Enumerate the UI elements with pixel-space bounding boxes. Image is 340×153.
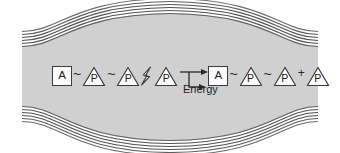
high-energy-bond-2: ~ xyxy=(106,67,116,81)
phosphate-triangle-3-cleaved: P xyxy=(154,66,178,87)
energy-label: Energy xyxy=(183,84,218,95)
high-energy-bond-3: ~ xyxy=(228,67,238,81)
phosphate-label: P xyxy=(281,73,288,87)
phosphate-label: P xyxy=(247,73,254,87)
phosphate-triangle-free: P xyxy=(306,66,330,87)
phosphate-label: P xyxy=(314,73,321,87)
phosphate-triangle-5: P xyxy=(273,66,297,87)
phosphate-triangle-1: P xyxy=(82,66,106,87)
high-energy-bond-4: ~ xyxy=(263,67,273,81)
phosphate-triangle-4: P xyxy=(239,66,263,87)
equation-layer: A ~ P ~ P xyxy=(0,0,340,153)
high-energy-bond-1: ~ xyxy=(72,67,82,81)
phosphate-label: P xyxy=(125,73,132,87)
adenosine-box-reactant: A xyxy=(52,66,72,86)
atp-hydrolysis-figure: A ~ P ~ P xyxy=(0,0,340,153)
phosphate-label: P xyxy=(163,73,170,87)
plus-operator: + xyxy=(297,67,306,79)
phosphate-label: P xyxy=(91,73,98,87)
phosphate-triangle-2: P xyxy=(116,66,140,87)
lightning-bolt-icon xyxy=(140,66,154,87)
